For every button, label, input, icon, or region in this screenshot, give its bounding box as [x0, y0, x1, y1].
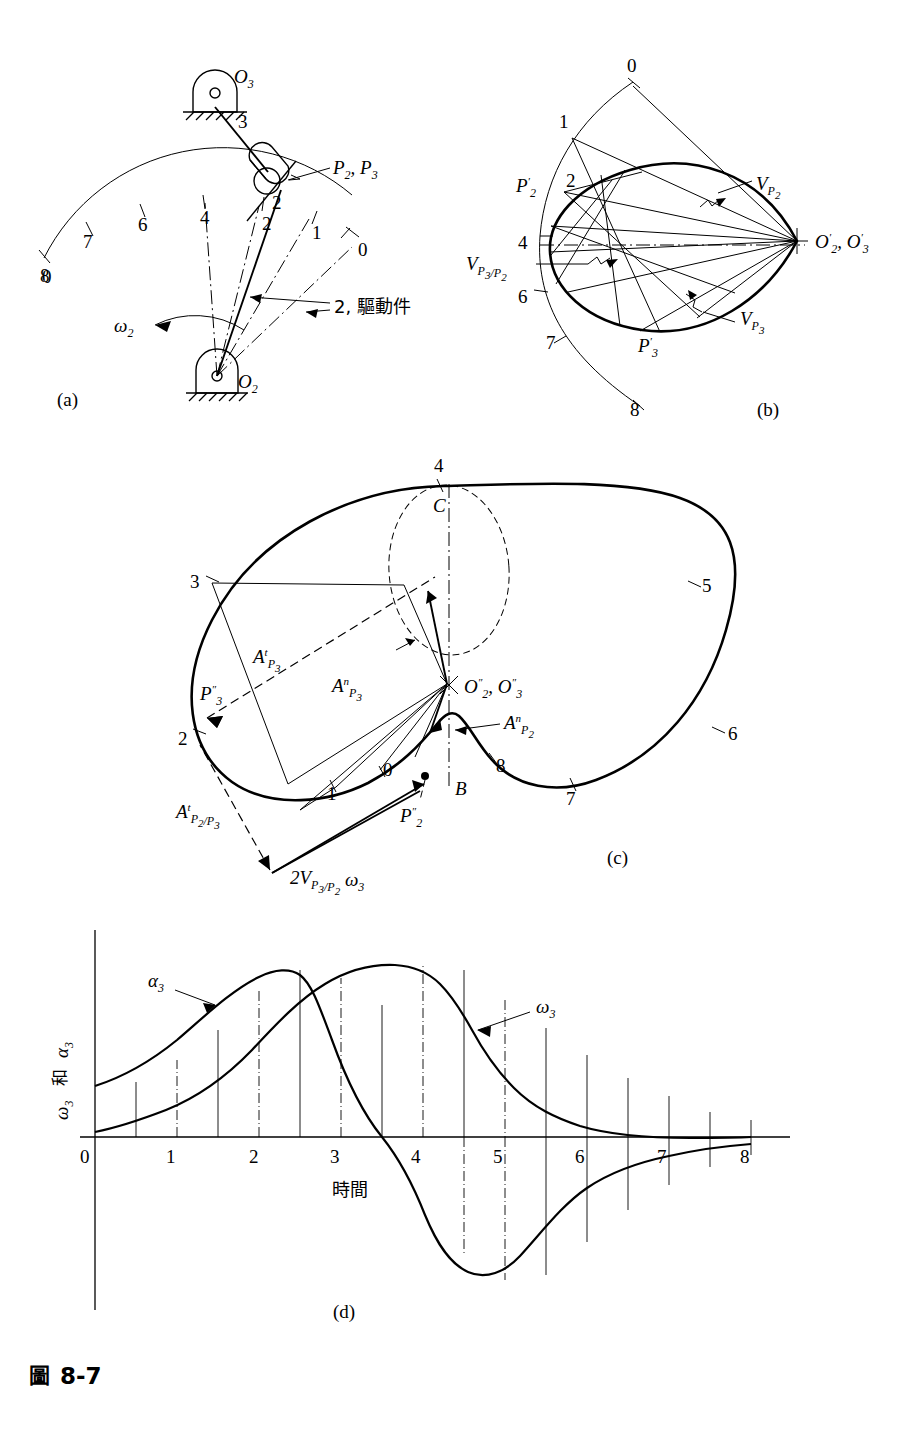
annotation-omega3: [477, 1012, 530, 1037]
label-c-point: C: [433, 495, 446, 516]
link2-position-rays: [205, 203, 352, 376]
leader-vp2: [700, 181, 752, 207]
xtick-2: 2: [249, 1146, 259, 1167]
xtick-4: 4: [411, 1146, 421, 1167]
leader-vp3p2: [536, 257, 618, 268]
svg-text:α3: α3: [51, 1042, 76, 1058]
vector-at-p3: [207, 577, 435, 728]
panel-a: O3 O2 0: [0, 0, 411, 411]
label-c-8: 8: [496, 755, 506, 776]
label-pole-c: O″2, O″3: [464, 676, 522, 701]
xtick-8: 8: [740, 1146, 750, 1167]
label-c-0: 0: [383, 759, 393, 780]
acceleration-curve: [192, 484, 736, 801]
x-axis-label: 時間: [332, 1179, 368, 1200]
annotation-alpha3: [175, 990, 216, 1013]
y-axis-label: ω3 和 α3: [50, 1042, 76, 1120]
xtick-0: 0: [80, 1146, 90, 1167]
label-an-p3: AnP3: [330, 675, 362, 703]
panel-c: O″2, O″3 4 3 2 1 0 5 6 7 8 C B: [174, 455, 738, 897]
label-b-6: 6: [518, 286, 528, 307]
svg-text:和: 和: [50, 1069, 70, 1086]
label-b-4: 4: [518, 232, 528, 253]
label-at-p3: AtP3: [251, 646, 281, 674]
label-arc-1: 1: [312, 222, 322, 243]
label-b-1: 1: [559, 111, 569, 132]
label-b-point: B: [455, 778, 467, 799]
marker-p3-dblprime: [207, 716, 223, 728]
label-p2-prime: P′2: [515, 175, 536, 200]
label-omega3: ω3: [536, 996, 555, 1021]
label-b-7: 7: [546, 332, 556, 353]
xtick-1: 1: [166, 1146, 176, 1167]
omega2-arrow: [155, 316, 244, 332]
xtick-3: 3: [330, 1146, 340, 1167]
label-vp2: VP2: [756, 173, 781, 201]
label-b-0: 0: [627, 55, 637, 76]
label-driver: 2, 驅動件: [334, 296, 411, 317]
label-link-3: 3: [238, 111, 248, 132]
label-vp3p2: VP3/P2: [466, 253, 507, 283]
construction-lines-c: [212, 583, 447, 810]
label-p2-p3: P2, P3: [332, 157, 378, 182]
xtick-6: 6: [575, 1146, 585, 1167]
panel-label-c: (c): [607, 847, 628, 869]
label-c-3: 3: [190, 571, 200, 592]
label-alpha3: α3: [148, 970, 164, 995]
label-at-p2p3: AtP2/P3: [174, 801, 220, 831]
panel-d: ω3 和 α3 0 1 2 3 4 5 6 7 8 時間: [50, 930, 790, 1323]
label-c-5: 5: [702, 575, 712, 596]
figure-8-7: O3 O2 0: [0, 0, 919, 1431]
label-p3-prime: P′3: [637, 335, 658, 360]
panel-label-a: (a): [57, 389, 78, 411]
figure-caption: 圖 8-7: [29, 1363, 102, 1389]
svg-text:8-7: 8-7: [60, 1363, 102, 1389]
label-arc-7: 7: [83, 231, 93, 252]
label-an-p2: AnP2: [502, 712, 534, 740]
svg-text:ω3: ω3: [51, 1101, 76, 1120]
svg-text:圖: 圖: [29, 1364, 50, 1388]
label-c-2: 2: [178, 728, 188, 749]
label-vp3: VP3: [740, 308, 765, 336]
label-b-8: 8: [630, 399, 640, 420]
label-b-2: 2: [566, 170, 576, 191]
label-coriolis: 2VP3/P2 ω3: [290, 867, 364, 897]
label-c-6: 6: [728, 723, 738, 744]
leader-p2p3: [288, 168, 330, 180]
ordinate-lines: [136, 966, 751, 1280]
vector-an-p3: [396, 591, 447, 684]
label-c-7: 7: [566, 788, 576, 809]
panel-label-b: (b): [757, 399, 779, 421]
vector-at-p2p3: [200, 745, 270, 870]
label-arc-0: 0: [358, 239, 368, 260]
xtick-5: 5: [493, 1146, 503, 1167]
label-p3-dblprime: P″3: [199, 683, 222, 708]
label-arc-8: 8: [40, 265, 50, 286]
vector-coriolis: [272, 780, 424, 873]
label-omega2: ω2: [114, 315, 133, 340]
figure-canvas: O3 O2 0: [0, 0, 919, 1431]
panel-b: O′2, O′3 0 1 2 4 6 7 8: [466, 55, 869, 421]
label-arc-4: 4: [200, 207, 210, 228]
label-c-4: 4: [434, 455, 444, 476]
label-o2: O2: [238, 371, 258, 396]
label-pole-b: O′2, O′3: [815, 231, 869, 256]
label-arc-6: 6: [138, 214, 148, 235]
label-p2-dblprime: P″2: [399, 805, 422, 830]
panel-label-d: (d): [333, 1301, 355, 1323]
label-link-2: 2: [272, 192, 282, 213]
